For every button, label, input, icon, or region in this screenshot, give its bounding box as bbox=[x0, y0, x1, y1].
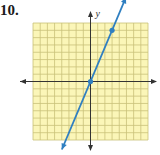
y-axis-label: y bbox=[95, 8, 101, 19]
x-axis-left-arrow-icon bbox=[20, 79, 26, 84]
y-axis-up-arrow-icon bbox=[88, 11, 93, 17]
coordinate-plane: y bbox=[0, 0, 160, 155]
data-point bbox=[109, 28, 114, 33]
data-point bbox=[88, 79, 93, 84]
y-axis-down-arrow-icon bbox=[88, 145, 93, 151]
x-axis-right-arrow-icon bbox=[151, 79, 157, 84]
